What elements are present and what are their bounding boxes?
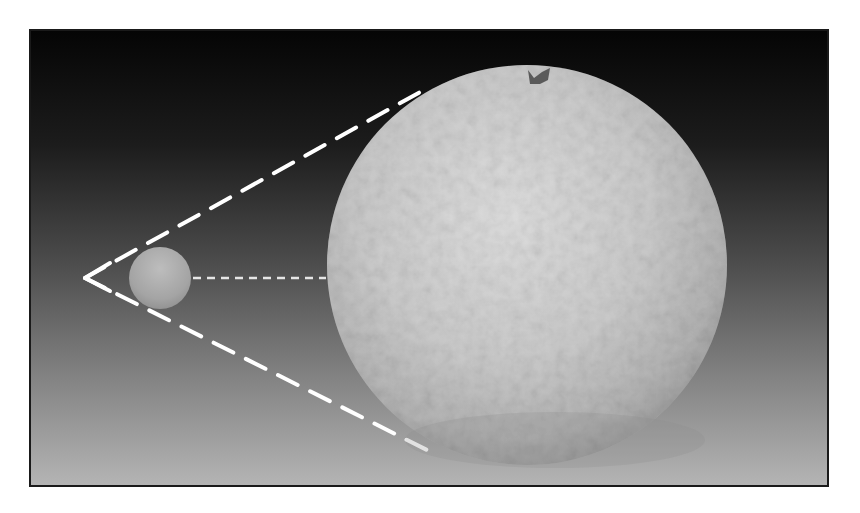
large-orange bbox=[327, 65, 727, 468]
small-sphere bbox=[129, 247, 191, 309]
scale-comparison-diagram bbox=[0, 0, 860, 513]
chevron-apex-icon bbox=[85, 263, 110, 291]
